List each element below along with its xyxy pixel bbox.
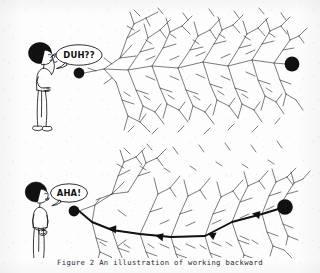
forward-search-drawing: DUH?? xyxy=(0,0,320,140)
goal-node xyxy=(285,57,300,72)
backward-search-drawing: AHA! xyxy=(0,140,320,258)
speech-text: AHA! xyxy=(57,188,82,198)
search-tree xyxy=(79,141,310,258)
hands-together xyxy=(39,229,47,235)
bubble-tail xyxy=(56,62,67,68)
arrowhead-2 xyxy=(208,232,217,240)
start-node xyxy=(74,68,85,79)
shoe-front xyxy=(42,127,52,131)
bubble-tail xyxy=(52,200,61,206)
torso xyxy=(33,207,48,227)
goal-node xyxy=(277,199,293,215)
shoe-back xyxy=(32,126,42,130)
person-insight xyxy=(25,182,49,258)
figure-page: DUH?? xyxy=(0,0,320,273)
shirt-hem xyxy=(33,227,47,228)
figure-caption: Figure 2 An illustration of working back… xyxy=(0,258,320,267)
arm-lower xyxy=(37,77,44,89)
speech-bubble-duh: DUH?? xyxy=(56,45,102,69)
arrowhead-1 xyxy=(252,211,260,219)
person-confused xyxy=(29,43,58,132)
forward-search-panel: DUH?? xyxy=(0,0,320,140)
arrowhead-3 xyxy=(155,233,164,241)
speech-bubble-aha: AHA! xyxy=(51,184,88,206)
solution-polyline xyxy=(79,207,285,237)
working-backward-path xyxy=(79,207,285,237)
speech-text: DUH?? xyxy=(63,50,94,60)
search-tree xyxy=(84,8,307,134)
backward-search-panel: AHA! xyxy=(0,140,320,258)
forearm xyxy=(54,61,57,62)
caption-text: Figure 2 An illustration of working back… xyxy=(57,258,263,267)
start-node xyxy=(69,206,80,217)
